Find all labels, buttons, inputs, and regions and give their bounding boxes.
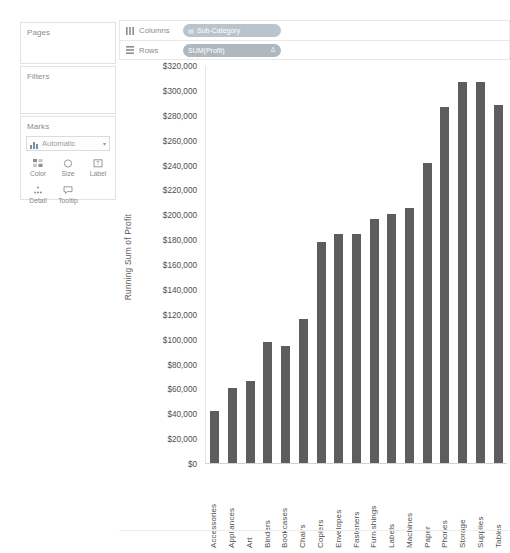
marks-buttons-row-2: Detail Tooltip xyxy=(21,182,115,209)
pill-sum-profit-label: SUM(Profit) xyxy=(188,47,225,54)
bar-mark[interactable] xyxy=(476,82,485,463)
rows-shelf[interactable]: Rows SUM(Profit) Δ xyxy=(119,40,510,60)
marks-label-button[interactable]: T Label xyxy=(83,155,113,180)
marks-tooltip-label: Tooltip xyxy=(58,198,78,205)
columns-icon xyxy=(124,27,135,35)
x-tick-label[interactable]: Phones xyxy=(440,466,449,548)
x-tick-label[interactable]: Art xyxy=(245,466,254,548)
bar-mark[interactable] xyxy=(440,107,449,463)
bar-slot xyxy=(383,66,401,463)
bar-mark[interactable] xyxy=(405,208,414,463)
y-tick-label: $260,000 xyxy=(163,136,197,145)
bar-mark[interactable] xyxy=(210,411,219,463)
filters-card[interactable]: Filters xyxy=(20,66,116,114)
x-tick-label[interactable]: Appliances xyxy=(227,466,236,548)
marks-size-label: Size xyxy=(61,171,74,178)
rows-shelf-label: Rows xyxy=(139,46,183,55)
y-axis-ticks: $320,000$300,000$280,000$260,000$240,000… xyxy=(147,66,201,464)
marks-tooltip-button[interactable]: Tooltip xyxy=(53,182,83,207)
pages-card-title: Pages xyxy=(21,23,115,40)
pages-card[interactable]: Pages xyxy=(20,22,116,64)
x-tick-label[interactable]: Copiers xyxy=(316,466,325,548)
x-tick-label[interactable]: Envelopes xyxy=(334,466,343,548)
svg-text:T: T xyxy=(96,160,100,166)
category-slot: Copiers xyxy=(312,466,330,548)
marks-color-label: Color xyxy=(30,171,46,178)
bar-mark[interactable] xyxy=(334,234,343,463)
marks-card[interactable]: Marks Automatic ▾ xyxy=(20,116,116,200)
chevron-down-icon[interactable]: ▾ xyxy=(103,141,106,147)
bar-slot xyxy=(295,66,313,463)
rows-icon xyxy=(124,46,135,54)
category-slot: Art xyxy=(241,466,259,548)
pill-sub-category-label: Sub-Category xyxy=(197,27,240,34)
mark-type-dropdown[interactable]: Automatic ▾ xyxy=(26,136,110,151)
category-slot: Phones xyxy=(436,466,454,548)
left-panel: Pages Filters Marks Automatic ▾ xyxy=(0,0,118,553)
bar-mark[interactable] xyxy=(317,242,326,463)
marks-size-button[interactable]: Size xyxy=(53,155,83,180)
bar-mark[interactable] xyxy=(494,105,503,463)
shelf-area: Columns ▤ Sub-Category Rows SUM(Profit) xyxy=(119,20,510,62)
bar-mark[interactable] xyxy=(281,346,290,463)
y-tick-label: $140,000 xyxy=(163,285,197,294)
y-tick-label: $100,000 xyxy=(163,335,197,344)
y-axis-title: Running Sum of Profit xyxy=(123,214,133,300)
bar-mark[interactable] xyxy=(370,219,379,463)
tooltip-icon xyxy=(63,185,73,196)
category-slot: Tables xyxy=(489,466,507,548)
x-tick-label[interactable]: Tables xyxy=(494,466,503,548)
detail-icon xyxy=(33,185,43,196)
marks-color-button[interactable]: Color xyxy=(23,155,53,180)
x-tick-label[interactable]: Fasteners xyxy=(352,466,361,548)
x-tick-label[interactable]: Machines xyxy=(405,466,414,548)
y-tick-label: $200,000 xyxy=(163,211,197,220)
filters-card-title: Filters xyxy=(21,67,115,84)
x-tick-label[interactable]: Binders xyxy=(263,466,272,548)
x-tick-label[interactable]: Paper xyxy=(423,466,432,548)
pill-sum-profit[interactable]: SUM(Profit) Δ xyxy=(183,44,281,57)
bar-mark[interactable] xyxy=(387,214,396,463)
x-tick-label[interactable]: Furnishings xyxy=(369,466,378,548)
bar-mark[interactable] xyxy=(423,163,432,463)
columns-shelf-label: Columns xyxy=(139,26,183,35)
category-slot: Bookcases xyxy=(276,466,294,548)
bar-mark[interactable] xyxy=(458,82,467,463)
bar-mark[interactable] xyxy=(352,234,361,463)
x-tick-label[interactable]: Storage xyxy=(458,466,467,548)
y-tick-label: $160,000 xyxy=(163,261,197,270)
y-tick-label: $120,000 xyxy=(163,310,197,319)
x-tick-label[interactable]: Supplies xyxy=(476,466,485,548)
y-tick-label: $0 xyxy=(188,460,197,469)
bar-mark[interactable] xyxy=(263,342,272,463)
bar-mark[interactable] xyxy=(228,388,237,463)
bar-slot xyxy=(401,66,419,463)
bar-slot xyxy=(259,66,277,463)
bar-mark[interactable] xyxy=(246,381,255,463)
pill-sub-category[interactable]: ▤ Sub-Category xyxy=(183,24,281,37)
color-icon xyxy=(33,158,43,169)
marks-empty-cell xyxy=(83,182,113,207)
columns-shelf[interactable]: Columns ▤ Sub-Category xyxy=(119,20,510,40)
x-axis-categories: AccessoriesAppliancesArtBindersBookcases… xyxy=(205,466,507,548)
category-slot: Storage xyxy=(454,466,472,548)
table-calc-delta-icon: Δ xyxy=(271,47,275,54)
bar-mark[interactable] xyxy=(299,319,308,463)
marks-detail-button[interactable]: Detail xyxy=(23,182,53,207)
category-slot: Paper xyxy=(418,466,436,548)
x-tick-label[interactable]: Labels xyxy=(387,466,396,548)
marks-label-label: Label xyxy=(90,171,107,178)
bar-slot xyxy=(436,66,454,463)
x-tick-label[interactable]: Chairs xyxy=(298,466,307,548)
bar-chart-icon xyxy=(30,135,39,153)
y-tick-label: $300,000 xyxy=(163,86,197,95)
y-tick-label: $20,000 xyxy=(167,435,197,444)
bar-series xyxy=(206,66,507,463)
category-slot: Labels xyxy=(383,466,401,548)
x-tick-label[interactable]: Bookcases xyxy=(280,466,289,548)
bar-slot xyxy=(418,66,436,463)
x-tick-label[interactable]: Accessories xyxy=(209,466,218,548)
bar-slot xyxy=(348,66,366,463)
bar-slot xyxy=(454,66,472,463)
y-tick-label: $180,000 xyxy=(163,236,197,245)
